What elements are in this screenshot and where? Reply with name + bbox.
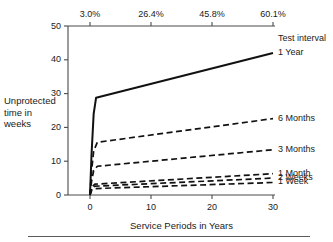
chart-figure: Unprotected time in weeks Service Period… xyxy=(0,0,333,242)
y-tick-label-2: 20 xyxy=(51,123,61,132)
y-tick-label-4: 40 xyxy=(51,55,61,64)
secondary-x-tick-label-3: 60.1% xyxy=(260,10,286,19)
secondary-x-tick-label-0: 3.0% xyxy=(80,10,101,19)
series-label-1-week: 1 Week xyxy=(278,177,308,186)
x-tick-label-1: 10 xyxy=(146,203,156,212)
y-tick-label-1: 10 xyxy=(51,157,61,166)
series-group xyxy=(90,53,273,195)
x-axis-title: Service Periods in Years xyxy=(130,220,233,232)
y-axis-title-line-2: time in xyxy=(4,107,66,119)
series-line-6-months xyxy=(90,119,273,195)
legend-title: Test interval xyxy=(278,34,326,43)
x-tick-label-0: 0 xyxy=(87,203,92,212)
y-tick-label-5: 50 xyxy=(51,22,61,31)
secondary-x-tick-label-1: 26.4% xyxy=(138,10,164,19)
series-label-6-months: 6 Months xyxy=(278,114,315,123)
bottom-divider-rule xyxy=(28,236,310,237)
x-tick-label-3: 30 xyxy=(268,203,278,212)
series-line-2-weeks xyxy=(90,178,273,195)
y-tick-label-3: 30 xyxy=(51,89,61,98)
axes-group xyxy=(64,22,275,199)
secondary-x-tick-label-2: 45.8% xyxy=(199,10,225,19)
series-label-3-months: 3 Months xyxy=(278,145,315,154)
x-tick-label-2: 20 xyxy=(207,203,217,212)
series-line-1-year xyxy=(90,53,273,195)
y-tick-label-0: 0 xyxy=(56,191,61,200)
series-label-1-year: 1 Year xyxy=(278,48,304,57)
